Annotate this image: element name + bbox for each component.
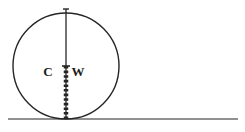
label-c: C — [43, 64, 53, 79]
label-w: W — [71, 64, 84, 79]
physics-diagram: C W — [0, 0, 245, 132]
diagram-canvas: C W — [0, 0, 245, 132]
diagram-background — [0, 0, 245, 132]
